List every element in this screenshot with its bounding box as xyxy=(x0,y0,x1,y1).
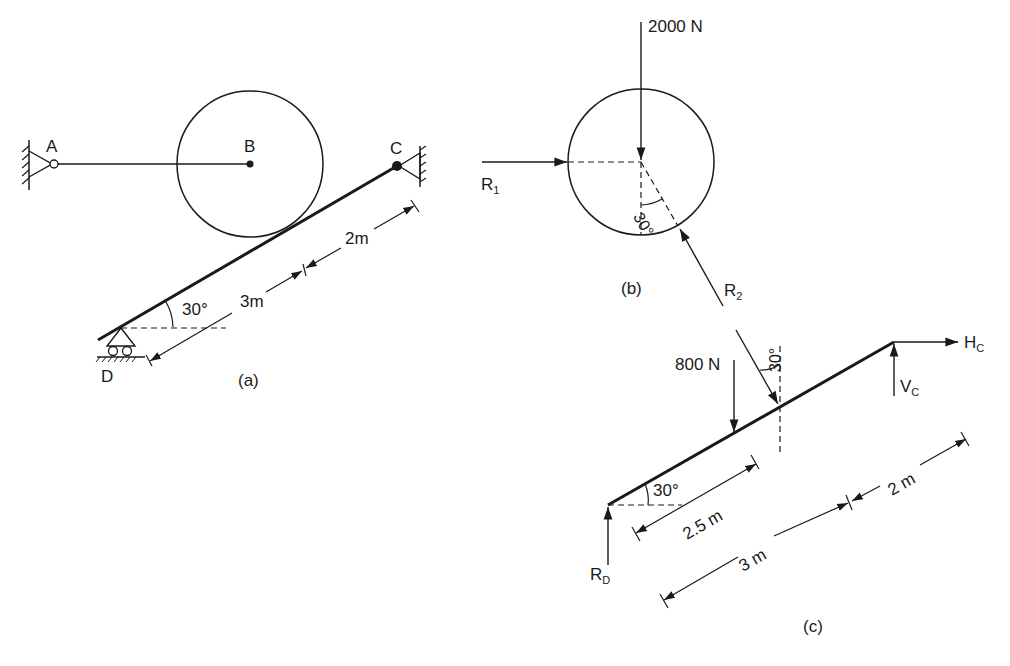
angle-label-a: 30° xyxy=(182,301,208,318)
dim-label-3m: 3m xyxy=(240,293,264,310)
dim-label-2m: 2m xyxy=(345,230,369,247)
caption-b: (b) xyxy=(621,280,642,297)
roller-support-d-icon xyxy=(96,328,145,362)
reaction-r2-arrow xyxy=(680,229,723,306)
load-label-800n: 800 N xyxy=(675,356,720,373)
point-label-a: A xyxy=(46,138,57,155)
reaction-label-r1: R1 xyxy=(481,176,499,196)
caption-a: (a) xyxy=(238,372,259,389)
reaction-label-vc: VC xyxy=(900,378,919,398)
reaction-label-hc: HC xyxy=(964,334,984,354)
panel-c xyxy=(608,330,969,608)
diagram-canvas xyxy=(0,0,1010,666)
angle-label-incline: 30° xyxy=(653,482,679,499)
reaction-label-rd: RD xyxy=(590,566,610,586)
panel-b xyxy=(482,22,723,306)
load-label-2000n: 2000 N xyxy=(648,18,703,35)
point-label-b: B xyxy=(244,138,255,155)
beam-dc xyxy=(98,166,397,340)
point-label-d: D xyxy=(101,368,113,385)
reaction-label-r2: R2 xyxy=(724,282,742,302)
caption-c: (c) xyxy=(803,618,823,635)
beam-fbd xyxy=(608,342,894,505)
angle-label-force: 30° xyxy=(768,348,784,372)
point-label-c: C xyxy=(390,140,402,157)
pin-support-c-icon xyxy=(399,146,426,187)
